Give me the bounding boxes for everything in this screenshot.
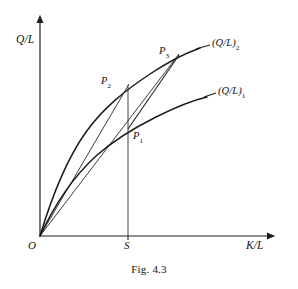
leader-line-ql1 — [204, 93, 216, 97]
point-label-p1-main: P — [133, 130, 140, 141]
curve-label-ql1-sub: 1 — [242, 92, 246, 100]
curve-upper-ql2 — [40, 48, 200, 236]
curve-label-ql2-main: (Q/L) — [212, 37, 236, 48]
point-label-p3-main: P — [159, 45, 166, 56]
figure-container: Q/L K/L O S P1 P2 P3 (Q/L)2 (Q/L)1 Fig. … — [0, 0, 298, 289]
point-label-p3: P3 — [159, 46, 169, 59]
point-label-p2: P2 — [101, 76, 111, 89]
leader-line-ql2 — [196, 45, 210, 49]
curve-label-ql2-sub: 2 — [236, 44, 240, 52]
y-axis-label: Q/L — [16, 34, 34, 46]
point-label-p2-main: P — [101, 75, 108, 86]
figure-caption: Fig. 4.3 — [0, 263, 298, 275]
curve-label-ql1-main: (Q/L) — [218, 85, 242, 96]
point-label-p3-sub: 3 — [166, 52, 170, 60]
ray-origin-to-p2 — [40, 84, 129, 236]
origin-label: O — [28, 240, 36, 251]
point-label-p1-sub: 1 — [140, 137, 144, 145]
point-label-p1: P1 — [133, 131, 143, 144]
x-tick-label-s: S — [124, 240, 130, 251]
curve-label-ql2: (Q/L)2 — [212, 38, 240, 51]
point-label-p2-sub: 2 — [108, 82, 112, 90]
x-axis-label: K/L — [246, 240, 264, 252]
curve-label-ql1: (Q/L)1 — [218, 86, 246, 99]
curve-lower-ql1 — [40, 97, 207, 236]
